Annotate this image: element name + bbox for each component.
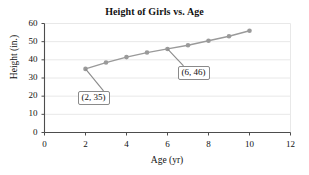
x-tick-label: 10 <box>240 139 260 149</box>
leader-line <box>86 69 104 91</box>
x-axis-title: Age (yr) <box>44 155 290 165</box>
y-tick-label: 30 <box>18 72 38 82</box>
annotation-callout: (2, 35) <box>78 91 110 105</box>
data-point-marker <box>247 28 252 33</box>
chart-container: Height of Girls vs. Age Height (in.) Age… <box>0 0 309 175</box>
data-point-marker <box>186 43 191 48</box>
y-tick-label: 10 <box>18 108 38 118</box>
data-point-marker <box>124 55 129 60</box>
y-tick-label: 40 <box>18 54 38 64</box>
x-tick-label: 8 <box>199 139 219 149</box>
x-tick-label: 0 <box>35 139 55 149</box>
data-point-marker <box>145 50 150 55</box>
data-point-marker <box>104 60 109 65</box>
y-tick-label: 60 <box>18 18 38 28</box>
data-points <box>83 28 252 71</box>
annotation-callout: (6, 46) <box>178 66 210 80</box>
y-tick-label: 50 <box>18 36 38 46</box>
x-tick-label: 6 <box>158 139 178 149</box>
data-point-marker <box>206 38 211 43</box>
x-tick-label: 4 <box>117 139 137 149</box>
leader-line <box>168 49 184 66</box>
y-tick-label: 20 <box>18 90 38 100</box>
tick-marks <box>42 24 291 136</box>
data-point-marker <box>227 34 232 39</box>
x-tick-label: 12 <box>281 139 301 149</box>
gridlines <box>45 24 291 133</box>
x-tick-label: 2 <box>76 139 96 149</box>
plot-area <box>0 0 309 175</box>
y-tick-label: 0 <box>18 127 38 137</box>
